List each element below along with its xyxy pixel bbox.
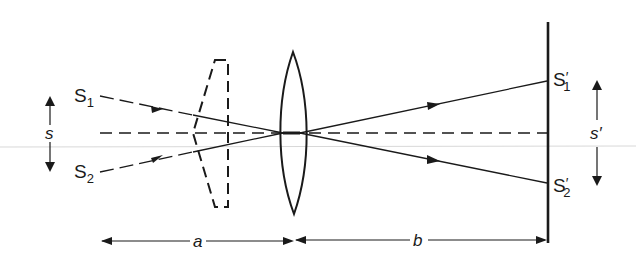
a-arrow-left-icon xyxy=(101,237,112,245)
ray-S2-incoming-dashed xyxy=(100,152,193,172)
label-a: a xyxy=(193,232,202,251)
label-s: s xyxy=(45,124,54,143)
label-S2prime: S′2 xyxy=(553,175,571,200)
b-arrow-right-icon xyxy=(536,236,547,244)
label-b: b xyxy=(413,231,422,250)
diagram-canvas: S1 S2 s S′1 S′2 s′ a b xyxy=(0,0,636,257)
optics-diagram: S1 S2 s S′1 S′2 s′ a b xyxy=(0,0,636,257)
label-S2: S2 xyxy=(74,161,94,186)
ray-S1prime-outgoing xyxy=(300,81,547,133)
ray-S2prime-outgoing xyxy=(300,133,547,183)
ray-S1-incoming xyxy=(193,115,283,133)
label-S1prime: S′1 xyxy=(553,69,571,94)
ray-S1prime-arrow-icon xyxy=(427,102,440,110)
b-arrow-left-icon xyxy=(295,236,306,244)
s-arrow-up-icon xyxy=(45,96,55,106)
scan-artifact-line xyxy=(0,146,636,147)
ray-S2-incoming xyxy=(193,133,283,152)
label-sprime: s′ xyxy=(590,124,603,143)
ray-S1-incoming-dashed xyxy=(100,96,193,115)
label-S1: S1 xyxy=(74,85,94,110)
sprime-arrow-down-icon xyxy=(592,176,602,186)
sprime-arrow-up-icon xyxy=(592,80,602,90)
ray-S1-arrow-icon xyxy=(151,106,163,113)
a-arrow-right-icon xyxy=(283,237,294,245)
s-arrow-down-icon xyxy=(45,162,55,172)
ray-S2prime-arrow-icon xyxy=(427,155,440,164)
